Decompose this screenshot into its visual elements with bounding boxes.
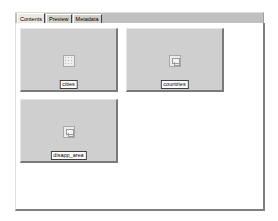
thumbnail-label: cities [59, 80, 78, 89]
thumbnail-label: disapp_area [50, 151, 86, 160]
polygon-dataset-icon [63, 126, 75, 138]
thumbnail-countries[interactable]: countries [126, 28, 224, 92]
point-dataset-icon [63, 55, 75, 67]
contents-panel: cities countries disapp_area [15, 23, 265, 211]
thumbnail-disapp-area[interactable]: disapp_area [20, 99, 118, 163]
polygon-dataset-icon [169, 55, 181, 67]
catalog-view: Contents Preview Metadata cities countri… [0, 0, 278, 221]
thumbnail-label: countries [160, 80, 188, 89]
thumbnail-cities[interactable]: cities [20, 28, 118, 92]
